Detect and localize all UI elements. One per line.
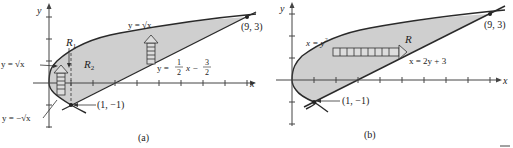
figure-canvas: y R1 R2 y = √x y = √x y = −√x y = 1 2 x … [0,0,513,148]
svg-text:2: 2 [177,68,181,77]
caption-b: (b) [364,129,376,141]
label-sqrt-upper-right: y = √x [128,20,152,30]
svg-text:3: 3 [205,58,209,67]
pointer-sqrt-lower-a [43,100,57,118]
label-point-1-neg1-b: (1, −1) [342,95,369,107]
svg-text:1: 1 [177,58,181,67]
point-9-3-b [488,12,492,16]
y-axis-arrow-a [47,3,52,9]
x-axis-arrow-b [496,78,502,83]
region-label-r1: R1 [65,36,77,50]
region-label-r-b: R [404,33,412,45]
label-point-9-3-b: (9, 3) [484,19,506,31]
label-point-9-3-a: (9, 3) [241,21,263,33]
point-9-3-a [245,15,249,19]
point-1-neg1-a [69,103,73,107]
y-axis-arrow-b [290,2,295,8]
label-parabola-b: x = y2 [305,37,328,48]
region-shaded-b [292,14,490,102]
x-axis-label-a: x [249,78,255,89]
label-line-equation-a: y = 1 2 x − 3 2 [157,58,211,77]
svg-text:y =: y = [157,63,169,73]
x-axis-label-b: x [502,75,508,86]
point-1-neg1-b [312,100,316,104]
label-line-b: x = 2y + 3 [409,56,447,66]
svg-text:2: 2 [205,68,209,77]
svg-text:x −: x − [185,63,198,73]
panel-a: y R1 R2 y = √x y = √x y = −√x y = 1 2 x … [1,3,263,144]
caption-a: (a) [138,132,149,144]
label-sqrt-lower: y = −√x [2,113,31,123]
y-axis-label-b: y [279,3,285,14]
curve-parabola-tail-b [314,102,328,112]
label-point-1-neg1-a: (1, −1) [97,99,124,111]
label-sqrt-upper-left: y = √x [1,59,25,69]
y-axis-label-a: y [36,5,42,16]
panel-b: y x = y2 R x = 2y + 3 (1, −1) (9, 3) x (… [276,2,508,141]
